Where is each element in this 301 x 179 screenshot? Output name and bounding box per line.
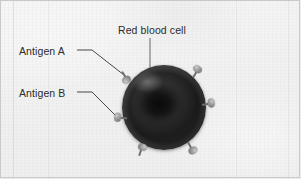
- label-antigen-b: Antigen B: [19, 87, 65, 99]
- label-antigen-a: Antigen A: [19, 45, 65, 57]
- antigen-marker-3: [200, 97, 216, 113]
- red-blood-cell: [120, 63, 208, 153]
- antigen-knob: [207, 98, 215, 108]
- label-red-blood-cell: Red blood cell: [118, 24, 186, 36]
- antigen-knob: [137, 142, 148, 151]
- figure-red-blood-cell-antigens: Red blood cell Antigen A Antigen B: [0, 0, 301, 179]
- antigen-marker-4: [114, 112, 129, 127]
- antigen-knob: [114, 113, 122, 122]
